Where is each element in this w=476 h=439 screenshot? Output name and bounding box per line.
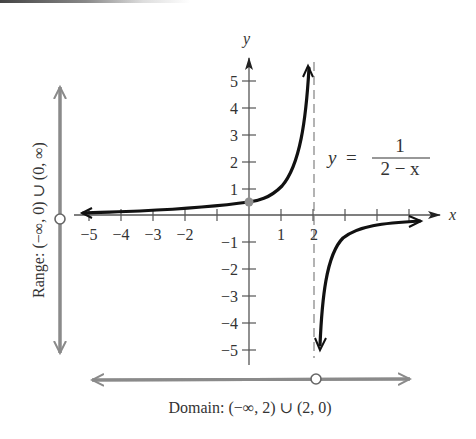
domain-number-line <box>92 374 410 384</box>
y-tick-label: −5 <box>221 342 238 359</box>
y-tick-label: −4 <box>221 315 238 332</box>
y-tick-label: −2 <box>221 261 238 278</box>
x-tick-label: −2 <box>176 226 193 243</box>
y-tick-labels: 5 4 3 2 1 −1 −2 −3 −4 −5 <box>221 73 238 359</box>
curve-right-branch <box>320 221 420 345</box>
x-tick-label: −3 <box>144 226 161 243</box>
x-tick-labels: −5 −4 −3 −2 1 2 <box>80 226 318 243</box>
domain-open-circle <box>311 374 321 384</box>
y-tick-label: −3 <box>221 288 238 305</box>
domain-label: Domain: (−∞, 2) ∪ (2, 0) <box>168 399 331 417</box>
function-label-numerator: 1 <box>395 135 405 156</box>
curve-left-branch <box>83 68 309 213</box>
y-tick-label: 5 <box>230 73 238 90</box>
y-tick-label: 1 <box>230 181 238 198</box>
function-label-equals: = <box>346 147 357 168</box>
y-intercept-point <box>245 198 254 207</box>
y-tick-label: 2 <box>230 154 238 171</box>
y-tick-label: −1 <box>221 234 238 251</box>
range-number-line <box>55 87 65 353</box>
range-label: Range: (−∞, 0) ∪ (0, ∞) <box>30 142 48 298</box>
y-axis-label: y <box>241 30 251 48</box>
range-open-circle <box>55 214 65 224</box>
x-tick-label: 1 <box>277 226 285 243</box>
x-tick-label: −4 <box>112 226 129 243</box>
y-tick-label: 3 <box>230 127 238 144</box>
function-label-denominator: 2 − x <box>380 158 420 179</box>
x-tick-label: −5 <box>80 226 97 243</box>
x-axis-label: x <box>448 206 456 223</box>
function-label-y: y <box>326 147 337 168</box>
function-label: y = 1 2 − x <box>326 135 430 179</box>
graph-figure: Range: (−∞, 0) ∪ (0, ∞) Domain: (−∞, 2) … <box>0 0 476 439</box>
x-tick-label: 2 <box>310 226 318 243</box>
y-tick-label: 4 <box>230 100 238 117</box>
